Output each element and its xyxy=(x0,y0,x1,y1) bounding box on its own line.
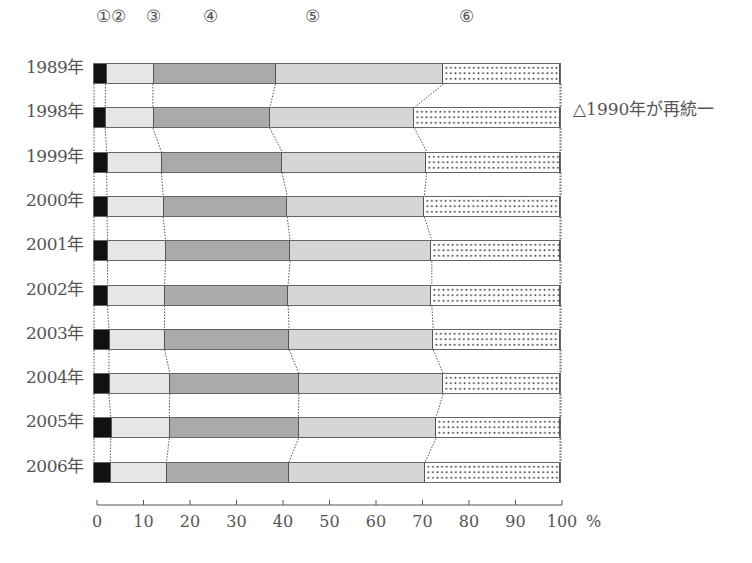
x-tick-label: 100 xyxy=(547,512,578,531)
x-tick-label: 90 xyxy=(505,512,525,531)
x-tick-label: 50 xyxy=(319,512,339,531)
x-tick-label: 80 xyxy=(459,512,479,531)
x-tick-label: 60 xyxy=(366,512,386,531)
x-axis xyxy=(0,0,752,563)
x-tick-label: 70 xyxy=(412,512,432,531)
x-tick-label: 0 xyxy=(92,512,102,531)
x-tick-label: 20 xyxy=(180,512,200,531)
x-tick-label: 30 xyxy=(226,512,246,531)
x-tick-label: 40 xyxy=(273,512,293,531)
x-tick-label: 10 xyxy=(133,512,153,531)
annotation-note: △1990年が再統一 xyxy=(573,95,714,120)
x-axis-unit: % xyxy=(586,512,601,531)
